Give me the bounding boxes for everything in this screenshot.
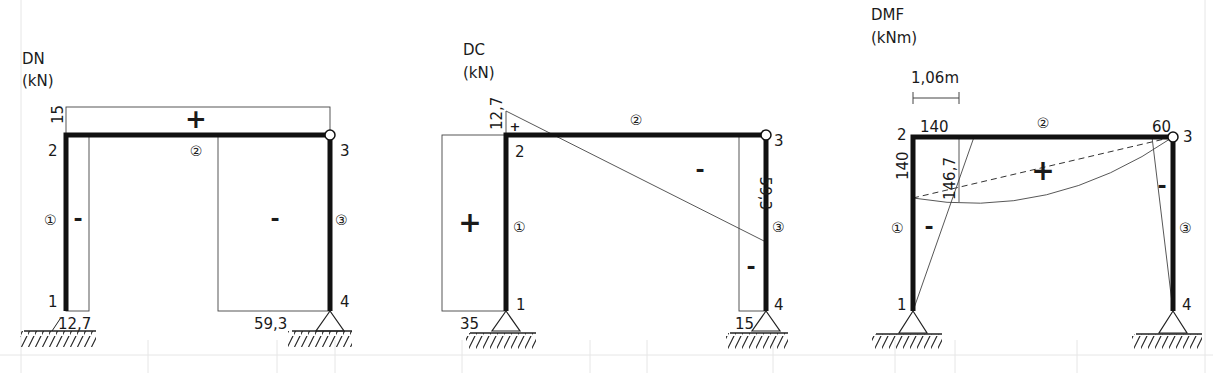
dn-member-2: ② bbox=[190, 143, 203, 159]
dc-member-2: ② bbox=[630, 112, 643, 128]
dmf-col3-line bbox=[1152, 137, 1173, 311]
dn-node-4: 4 bbox=[340, 293, 350, 311]
dmf-title: DMF bbox=[871, 6, 904, 24]
dn-node-3: 3 bbox=[340, 142, 350, 160]
dc-col3-sign: - bbox=[746, 254, 755, 279]
dn-node-2: 2 bbox=[48, 142, 58, 160]
dc-col3-value: 15 bbox=[735, 315, 754, 333]
dmf-unit: (kNm) bbox=[871, 29, 917, 47]
dc-member-3: ③ bbox=[772, 219, 785, 235]
dmf-col1-top-value: 140 bbox=[894, 151, 912, 180]
dn-member-3: ③ bbox=[335, 212, 348, 228]
frame-diagrams-canvas: DN (kN) 15 + 2 ② 3 ① - - ③ 1 4 12,7 bbox=[0, 0, 1213, 373]
dmf-node-2: 2 bbox=[897, 126, 907, 144]
dmf-beam-sign: + bbox=[1031, 154, 1054, 187]
dc-member-1: ① bbox=[513, 219, 526, 235]
dn-frame bbox=[66, 135, 330, 311]
dc-node-2: 2 bbox=[515, 143, 525, 161]
dc-beam-line bbox=[506, 111, 766, 242]
dc-col1-value: 35 bbox=[460, 315, 479, 333]
dmf-member-3: ③ bbox=[1179, 220, 1192, 236]
dn-col1-value: 12,7 bbox=[58, 315, 91, 333]
dmf-beam-right-value: 60 bbox=[1152, 118, 1171, 136]
dc-beam-left-value: 12,7 bbox=[488, 97, 506, 130]
dn-beam-sign: + bbox=[185, 104, 207, 134]
dn-col3-sign: - bbox=[270, 206, 279, 231]
dmf-col1-sign: - bbox=[924, 214, 933, 239]
dn-col1-sign: - bbox=[73, 206, 82, 231]
dmf-node-1: 1 bbox=[897, 296, 907, 314]
dn-beam-value: 15 bbox=[49, 105, 67, 124]
dmf-beam-max-value: 146,7 bbox=[941, 157, 959, 200]
dn-col3-value: 59,3 bbox=[254, 315, 287, 333]
dmf-node-3: 3 bbox=[1183, 128, 1193, 146]
dmf-pin-support-icon-4 bbox=[1132, 311, 1202, 350]
dn-diagram: DN (kN) 15 + 2 ② 3 ① - - ③ 1 4 12,7 bbox=[20, 50, 352, 347]
dc-beam-sign: - bbox=[695, 157, 704, 182]
dn-hinge-icon bbox=[325, 130, 335, 140]
dmf-pin-support-icon-1 bbox=[872, 311, 942, 350]
dc-col1-sign: + bbox=[458, 206, 481, 239]
dmf-diagram: DMF (kNm) 1,06m 2 140 bbox=[871, 6, 1202, 350]
dmf-beam-left-value: 140 bbox=[920, 118, 949, 136]
dc-unit: (kN) bbox=[463, 64, 495, 82]
dn-title: DN bbox=[22, 50, 45, 68]
dn-unit: (kN) bbox=[22, 72, 54, 90]
dn-pin-support-icon bbox=[288, 311, 352, 347]
dn-member-1: ① bbox=[44, 212, 57, 228]
dmf-node-4: 4 bbox=[1182, 296, 1192, 314]
dc-title: DC bbox=[463, 41, 485, 59]
dmf-dimension-label: 1,06m bbox=[911, 69, 959, 87]
dmf-col3-sign: - bbox=[1157, 173, 1166, 198]
dc-node-4: 4 bbox=[774, 296, 784, 314]
dc-frame bbox=[506, 135, 766, 311]
dn-node-1: 1 bbox=[48, 293, 58, 311]
dc-node-3: 3 bbox=[774, 132, 784, 150]
dc-beam-left-sign: + bbox=[510, 119, 521, 134]
dc-hinge-icon bbox=[761, 130, 771, 140]
dc-col3-area bbox=[739, 135, 766, 311]
dc-diagram: DC (kN) 12,7 + ② 2 3 - 59,3 + ① ③ - 1 bbox=[442, 41, 788, 349]
dmf-member-2: ② bbox=[1037, 115, 1050, 131]
dmf-member-1: ① bbox=[891, 220, 904, 236]
dmf-dimension-line bbox=[913, 92, 959, 104]
dc-col3-top-value: 59,3 bbox=[756, 177, 774, 210]
dc-node-1: 1 bbox=[516, 296, 526, 314]
